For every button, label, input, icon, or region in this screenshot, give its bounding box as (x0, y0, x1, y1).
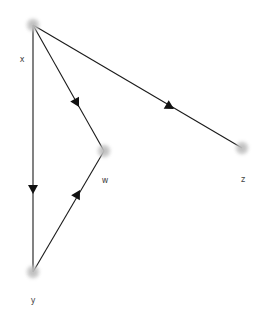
node-w[interactable] (97, 144, 111, 158)
node-label-y: y (31, 296, 36, 305)
node-y[interactable] (26, 265, 40, 279)
node-label-x: x (20, 55, 25, 64)
edge-x-w[interactable] (33, 25, 104, 151)
edges-layer (33, 25, 242, 272)
graph-figure: x w y z (0, 0, 263, 315)
node-label-w: w (102, 176, 109, 185)
arrowhead-x-z (164, 100, 177, 113)
arrowhead-y-w (71, 188, 84, 201)
graph-canvas: x w y z (0, 0, 263, 315)
node-z[interactable] (235, 141, 249, 155)
edge-y-w[interactable] (33, 151, 104, 272)
node-x[interactable] (26, 18, 40, 32)
arrowhead-x-w (70, 97, 83, 110)
nodes-layer (26, 18, 249, 279)
arrowhead-x-y (28, 185, 38, 194)
labels-layer: x w y z (20, 55, 245, 305)
edge-x-z[interactable] (33, 25, 242, 148)
node-label-z: z (241, 175, 245, 184)
